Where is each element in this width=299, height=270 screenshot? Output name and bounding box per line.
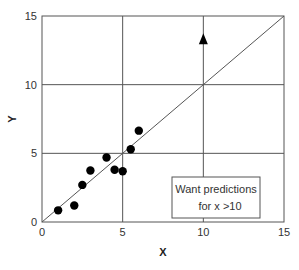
annotation-line-1: Want predictions <box>175 183 257 195</box>
x-tick-label: 15 <box>278 226 290 238</box>
data-point <box>86 166 94 174</box>
data-point <box>70 201 78 209</box>
data-point <box>135 126 143 134</box>
data-point <box>127 145 135 153</box>
data-point <box>54 206 62 214</box>
y-tick-label: 5 <box>31 147 37 159</box>
annotation-line-2: for x >10 <box>198 200 241 212</box>
data-point <box>118 167 126 175</box>
scatter-chart: 051015051015 Want predictions for x >10 … <box>0 0 299 270</box>
y-tick-label: 15 <box>25 10 37 22</box>
prediction-triangle-point <box>199 33 208 44</box>
x-axis-title: X <box>159 246 167 258</box>
x-tick-label: 0 <box>39 226 45 238</box>
y-tick-label: 0 <box>31 216 37 228</box>
x-tick-label: 10 <box>197 226 209 238</box>
annotation-box: Want predictions for x >10 <box>172 177 260 218</box>
y-axis-title: Y <box>6 115 18 123</box>
y-tick-label: 10 <box>25 79 37 91</box>
data-point <box>102 153 110 161</box>
x-tick-label: 5 <box>120 226 126 238</box>
data-point <box>110 166 118 174</box>
data-point <box>78 181 86 189</box>
